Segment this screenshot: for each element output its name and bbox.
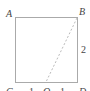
dashed-segment-bo [46,18,77,82]
square-abdc [16,18,78,83]
vertex-label-o: O [43,86,50,91]
vertex-label-b: B [79,6,85,17]
side-length-bd: 2 [81,44,86,55]
vertex-label-c: C [6,86,13,91]
side-length-co: 1 [29,86,34,91]
square-diagram: A B C D O 2 1 1 [0,0,90,91]
side-length-od: 1 [60,86,65,91]
vertex-label-a: A [5,8,13,19]
vertex-label-d: D [78,86,87,91]
